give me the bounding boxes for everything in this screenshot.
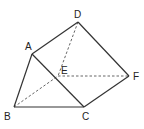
edge-ad [32,22,78,54]
edge-df [78,22,129,76]
vertex-label-f: F [133,71,139,82]
edge-ac [32,54,84,107]
edge-ab [14,54,32,107]
vertex-label-b: B [4,111,11,122]
prism-diagram: ABCDEF [0,0,144,129]
edge-cf [84,76,129,107]
solid-edges [14,22,129,107]
vertex-label-c: C [82,111,89,122]
vertex-label-e: E [61,65,68,76]
edge-be-hidden [14,76,58,107]
vertex-label-a: A [25,41,32,52]
vertex-label-d: D [74,9,81,20]
